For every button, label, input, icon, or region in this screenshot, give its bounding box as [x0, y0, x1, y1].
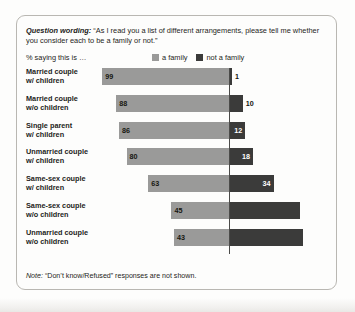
- chart-plot-area: Married couplew/ children991Married coup…: [17, 68, 338, 256]
- row-bars: 6334: [17, 175, 338, 192]
- bar-value-a-family: 63: [151, 180, 159, 187]
- bar-not-a-family: [230, 229, 303, 246]
- question-wording: Question wording: “As I read you a list …: [26, 26, 322, 47]
- bar-a-family: 63: [148, 175, 229, 192]
- scanned-page: Question wording: “As I read you a list …: [0, 0, 355, 312]
- bar-not-a-family: [230, 95, 243, 112]
- bar-not-a-family: 34: [230, 175, 274, 192]
- chart-note: Note: “Don’t know/Refused” responses are…: [26, 272, 326, 280]
- bar-value-not-a-family: 12: [234, 127, 242, 134]
- bar-not-a-family: 12: [230, 122, 245, 139]
- question-wording-label: Question wording:: [26, 26, 91, 35]
- bar-value-a-family: 45: [174, 207, 182, 214]
- bar-value-a-family: 86: [122, 127, 130, 134]
- chart-row: Same-sex couplew/o children45: [17, 202, 338, 219]
- row-bars: 8018: [17, 148, 338, 165]
- row-bars: 43: [17, 229, 338, 246]
- row-bars: 8612: [17, 122, 338, 139]
- legend-swatch-not-a-family: [196, 54, 203, 61]
- saying-row: % saying this is … a familynot a family: [26, 53, 326, 64]
- row-bars: 8810: [17, 95, 338, 112]
- bar-value-a-family: 80: [130, 153, 138, 160]
- chart-legend: a familynot a family: [152, 53, 244, 62]
- chart-row: Married couplew/ children991: [17, 68, 338, 85]
- bar-a-family: 80: [127, 148, 229, 165]
- note-label: Note:: [26, 272, 43, 280]
- bar-a-family: 99: [102, 68, 229, 85]
- chart-card: Question wording: “As I read you a list …: [16, 15, 337, 290]
- bar-value-a-family: 88: [119, 100, 127, 107]
- legend-label: a family: [162, 53, 187, 62]
- bar-a-family: 88: [116, 95, 229, 112]
- row-bars: 991: [17, 68, 338, 85]
- bar-a-family: 86: [119, 122, 229, 139]
- bar-not-a-family: [230, 68, 232, 85]
- chart-row: Unmarried couplew/o children43: [17, 229, 338, 246]
- chart-row: Unmarried couplew/ children8018: [17, 148, 338, 165]
- row-bars: 45: [17, 202, 338, 219]
- percent-saying-label: % saying this is …: [26, 53, 86, 62]
- legend-swatch-a-family: [152, 54, 159, 61]
- bar-value-not-a-family: 34: [263, 180, 271, 187]
- bar-value-not-a-family: 10: [246, 100, 254, 107]
- bar-value-a-family: 99: [105, 73, 113, 80]
- chart-row: Single parentw/ children8612: [17, 122, 338, 139]
- bar-a-family: 43: [174, 229, 229, 246]
- note-text: “Don’t know/Refused” responses are not s…: [43, 272, 196, 280]
- scan-shadow: [0, 298, 355, 312]
- legend-item: not a family: [196, 53, 244, 62]
- bar-value-not-a-family: 18: [242, 153, 250, 160]
- bar-value-a-family: 43: [177, 234, 185, 241]
- bar-a-family: 45: [171, 202, 229, 219]
- legend-label: not a family: [206, 53, 244, 62]
- chart-row: Same-sex couplew/ children6334: [17, 175, 338, 192]
- bar-not-a-family: 18: [230, 148, 253, 165]
- bar-value-not-a-family: 1: [235, 73, 239, 80]
- chart-row: Married couplew/o children8810: [17, 95, 338, 112]
- legend-item: a family: [152, 53, 187, 62]
- bar-not-a-family: [230, 202, 300, 219]
